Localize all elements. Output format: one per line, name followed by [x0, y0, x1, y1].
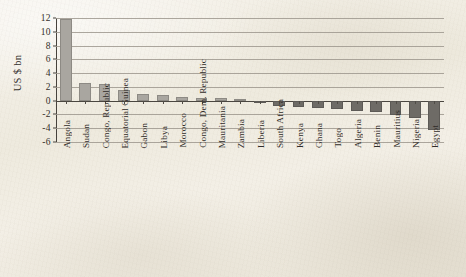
y-axis-line: [56, 18, 57, 142]
y-tick-mark: [53, 59, 56, 60]
x-axis-label-text: Gabon: [139, 123, 149, 149]
x-tick-mark: [182, 101, 183, 104]
x-tick-mark: [221, 101, 222, 104]
gridline: [56, 73, 444, 74]
y-tick-mark: [53, 128, 56, 129]
bar: [79, 83, 91, 101]
x-tick-mark: [143, 101, 144, 104]
x-axis-label-text: Togo: [333, 128, 343, 148]
y-axis-title: US $ bn: [12, 38, 23, 108]
gridline: [56, 128, 444, 129]
y-tick-label: 4: [46, 68, 51, 78]
x-axis-category-labels: AngolaSudanCongo, RepublicEquatorial Gui…: [56, 146, 444, 266]
x-axis-label-text: Angola: [62, 120, 72, 148]
x-axis-label-text: Zambia: [236, 119, 246, 148]
y-tick-label: 6: [46, 54, 51, 64]
x-axis-label-text: Kenya: [295, 123, 305, 148]
x-axis-label-text: Libya: [159, 126, 169, 148]
gridline: [56, 46, 444, 47]
x-axis-label-text: Sudan: [81, 124, 91, 148]
x-tick-mark: [376, 101, 377, 104]
gridline: [56, 114, 444, 115]
gridline: [56, 87, 444, 88]
x-axis-label-text: Mauritius: [392, 110, 402, 148]
x-axis-label-text: Equatorial Guinea: [120, 78, 130, 149]
y-tick-label: 8: [46, 41, 51, 51]
bar-chart-figure: US $ bn 121086420-2-4-6 AngolaSudanCongo…: [0, 0, 466, 277]
y-tick-mark: [53, 73, 56, 74]
x-tick-mark: [415, 101, 416, 104]
x-axis-label-text: Ghana: [314, 123, 324, 148]
bar: [60, 19, 72, 100]
bar: [137, 94, 149, 101]
gridline: [56, 142, 444, 143]
y-tick-mark: [53, 100, 56, 101]
x-axis-label-text: Mauritania: [217, 106, 227, 148]
y-tick-label: 2: [46, 82, 51, 92]
gridline: [56, 59, 444, 60]
gridline: [56, 32, 444, 33]
y-tick-label: -4: [42, 123, 51, 133]
y-tick-mark: [53, 31, 56, 32]
y-tick-label: 0: [46, 96, 51, 106]
y-tick-mark: [53, 142, 56, 143]
x-axis-label-text: Congo, Dem. Republic: [198, 59, 208, 148]
y-tick-mark: [53, 86, 56, 87]
y-tick-mark: [53, 114, 56, 115]
x-axis-label-text: South Africa: [275, 99, 285, 148]
y-tick-mark: [53, 18, 56, 19]
x-tick-mark: [163, 101, 164, 104]
x-tick-mark: [299, 101, 300, 104]
x-axis-label-text: Algeria: [353, 119, 363, 148]
x-tick-mark: [318, 101, 319, 104]
y-tick-label: 10: [41, 27, 51, 37]
x-axis-label-text: Morocco: [178, 113, 188, 148]
gridline: [56, 18, 444, 19]
x-tick-mark: [66, 101, 67, 104]
x-axis-label-text: Egypt: [430, 125, 440, 148]
x-tick-mark: [357, 101, 358, 104]
x-tick-mark: [85, 101, 86, 104]
x-axis-label-text: Congo, Republic: [101, 83, 111, 148]
zero-line: [56, 101, 444, 102]
x-tick-mark: [260, 101, 261, 104]
x-tick-mark: [240, 101, 241, 104]
y-tick-label: 12: [41, 13, 51, 23]
plot-area: 121086420-2-4-6: [56, 18, 444, 142]
x-tick-mark: [337, 101, 338, 104]
x-axis-label-text: Benin: [372, 125, 382, 148]
y-tick-mark: [53, 45, 56, 46]
y-tick-label: -6: [42, 137, 51, 147]
x-axis-label-text: Liberia: [256, 120, 266, 148]
x-axis-label-text: Nigeria: [411, 119, 421, 148]
x-tick-mark: [396, 101, 397, 104]
y-tick-label: -2: [42, 109, 51, 119]
x-tick-mark: [434, 101, 435, 104]
